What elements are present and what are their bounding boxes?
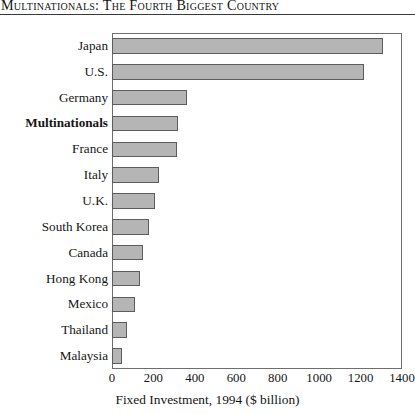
x-tick-0: 0: [109, 371, 115, 386]
x-tick-800: 800: [268, 371, 287, 386]
bar-fill: [112, 271, 140, 287]
category-label-italy: Italy: [0, 168, 108, 182]
bar-fill: [112, 116, 178, 132]
bar-fill: [112, 348, 122, 364]
bar-fill: [112, 142, 177, 158]
category-label-hong-kong: Hong Kong: [0, 272, 108, 286]
bar-fill: [112, 167, 159, 183]
bar-canada: [112, 245, 402, 261]
bar-hong-kong: [112, 271, 402, 287]
bar-fill: [112, 219, 149, 235]
category-label-japan: Japan: [0, 39, 108, 53]
bar-south-korea: [112, 219, 402, 235]
bar-fill: [112, 297, 135, 313]
bar-fill: [112, 38, 383, 54]
x-tick-600: 600: [227, 371, 246, 386]
title-divider: [0, 14, 415, 15]
x-tick-1000: 1000: [306, 371, 332, 386]
x-tick-200: 200: [144, 371, 163, 386]
bar-mexico: [112, 297, 402, 313]
bar-multinationals: [112, 116, 402, 132]
bar-fill: [112, 193, 155, 209]
bar-thailand: [112, 322, 402, 338]
bar-u-k: [112, 193, 402, 209]
bar-germany: [112, 90, 402, 106]
x-axis-title: Fixed Investment, 1994 ($ billion): [0, 392, 415, 408]
bar-italy: [112, 167, 402, 183]
category-axis-labels: JapanU.S.GermanyMultinationalsFranceItal…: [0, 33, 108, 369]
category-label-thailand: Thailand: [0, 323, 108, 337]
category-label-mexico: Mexico: [0, 297, 108, 311]
title-band: Multinationals: The Fourth Biggest Count…: [0, 0, 415, 16]
category-label-multinationals: Multinationals: [0, 116, 108, 130]
bar-malaysia: [112, 348, 402, 364]
x-tick-1200: 1200: [348, 371, 374, 386]
x-tick-1400: 1400: [389, 371, 415, 386]
page-title: Multinationals: The Fourth Biggest Count…: [1, 0, 279, 14]
category-label-france: France: [0, 142, 108, 156]
bar-france: [112, 142, 402, 158]
bar-fill: [112, 90, 187, 106]
value-axis-ticks: 0200400600800100012001400: [112, 371, 402, 389]
bar-fill: [112, 64, 364, 80]
bar-fill: [112, 245, 143, 261]
bar-u-s: [112, 64, 402, 80]
x-tick-400: 400: [185, 371, 204, 386]
category-label-canada: Canada: [0, 246, 108, 260]
category-label-u-k: U.K.: [0, 194, 108, 208]
bars-layer: [112, 33, 402, 369]
category-label-malaysia: Malaysia: [0, 349, 108, 363]
bar-japan: [112, 38, 402, 54]
category-label-south-korea: South Korea: [0, 220, 108, 234]
bar-fill: [112, 322, 127, 338]
category-label-germany: Germany: [0, 91, 108, 105]
category-label-u-s: U.S.: [0, 65, 108, 79]
